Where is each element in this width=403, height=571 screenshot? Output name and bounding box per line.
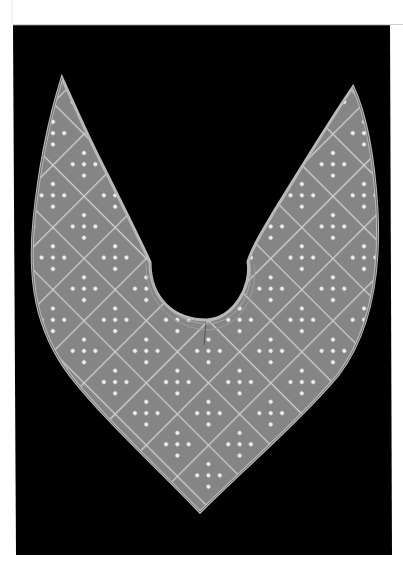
textile-photo-svg <box>0 0 403 571</box>
photograph <box>0 0 403 571</box>
